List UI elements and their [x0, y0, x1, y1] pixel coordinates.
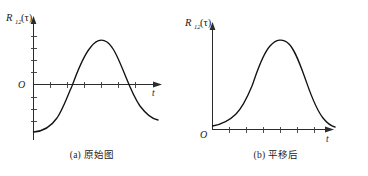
plot-shifted: R 12 (τ) O t: [184, 0, 368, 150]
caption-shifted: (b) 平移后: [184, 148, 368, 162]
figure-container: R 12 (τ) O t (a) 原始图 R 12 (τ: [0, 0, 368, 176]
origin-label-a: O: [18, 79, 25, 90]
panel-shifted: R 12 (τ) O t (b) 平移后: [184, 0, 368, 176]
y-axis-label-arg-b: (τ): [200, 17, 212, 29]
y-axis-label-base-a: R: [5, 12, 13, 23]
y-axis-label-base-b: R: [184, 17, 192, 28]
origin-label-b: O: [200, 129, 207, 140]
t-axis-label-a: t: [152, 88, 155, 98]
t-axis-arrowhead-a: [153, 82, 162, 88]
caption-original: (a) 原始图: [0, 148, 184, 162]
curve-shifted: [213, 40, 336, 127]
plot-original: R 12 (τ) O t: [0, 0, 184, 150]
curve-original: [34, 40, 159, 132]
t-axis-arrowhead-b: [325, 127, 334, 133]
panel-original: R 12 (τ) O t (a) 原始图: [0, 0, 184, 176]
y-axis-label-arg-a: (τ): [21, 12, 33, 24]
t-axis-label-b: t: [326, 134, 329, 144]
